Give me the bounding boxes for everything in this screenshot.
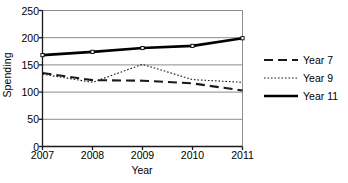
x-axis-title-text: Year xyxy=(131,164,152,176)
legend-item-year-7[interactable]: Year 7 xyxy=(264,51,348,69)
series-line-year-9 xyxy=(43,64,243,82)
line-chart: Spending 050100150200250 200720082009201… xyxy=(0,0,348,183)
legend-label: Year 11 xyxy=(303,90,338,102)
x-tick-label: 2008 xyxy=(81,149,104,161)
x-tick-label: 2011 xyxy=(231,149,254,161)
axis-lines xyxy=(43,11,243,147)
data-point-marker xyxy=(241,37,244,40)
data-point-marker xyxy=(41,54,44,57)
x-tick-label: 2007 xyxy=(31,149,54,161)
series-line-year-7 xyxy=(43,73,243,90)
legend-label: Year 7 xyxy=(303,54,333,66)
legend-swatch-dashed xyxy=(264,54,298,66)
chart-legend: Year 7Year 9Year 11 xyxy=(264,51,348,105)
x-axis-tick-labels: 20072008200920102011 xyxy=(0,149,348,165)
x-axis-title: Year xyxy=(42,164,242,176)
legend-item-year-9[interactable]: Year 9 xyxy=(264,69,348,87)
data-point-marker xyxy=(91,50,94,53)
legend-label: Year 9 xyxy=(303,72,333,84)
data-point-marker xyxy=(191,44,194,47)
legend-item-year-11[interactable]: Year 11 xyxy=(264,87,348,105)
x-tick-label: 2009 xyxy=(131,149,154,161)
data-point-marker xyxy=(141,46,144,49)
x-tick-label: 2010 xyxy=(181,149,204,161)
legend-swatch-dotted xyxy=(264,72,298,84)
legend-swatch-solid xyxy=(264,90,298,102)
series-lines xyxy=(41,37,244,91)
gridlines xyxy=(43,11,243,120)
